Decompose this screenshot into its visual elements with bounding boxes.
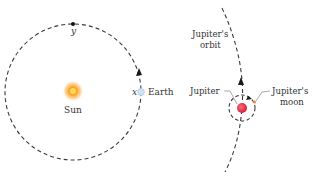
sun	[62, 80, 84, 102]
sun-label: Sun	[64, 105, 82, 115]
jupiter-orbit-label-line2: orbit	[200, 40, 221, 50]
jupiter-leader-line	[224, 91, 237, 104]
point-y-label: y	[70, 26, 77, 36]
point-x-label: x	[132, 87, 137, 97]
jupiter-moon-label: Jupiter's moon	[271, 86, 311, 107]
orbit-diagram: y Sun x Earth Jupiter's orbit Jupiter Ju…	[0, 0, 315, 177]
moon-leader-line	[256, 91, 270, 101]
jupiter-orbit-label-line1: Jupiter's	[191, 29, 228, 39]
earth	[138, 89, 145, 96]
jupiter-orbit-arrow-icon	[238, 77, 244, 85]
jupiter-label: Jupiter	[189, 86, 220, 96]
jupiter	[237, 103, 247, 113]
earth-orbit-arrow-icon	[136, 68, 142, 76]
jupiter-moon-label-line2: moon	[280, 97, 304, 107]
earth-label: Earth	[148, 87, 174, 97]
jupiter-orbit-label: Jupiter's orbit	[191, 29, 231, 50]
jupiter-moon	[253, 100, 256, 103]
jupiter-moon-label-line1: Jupiter's	[271, 86, 308, 96]
